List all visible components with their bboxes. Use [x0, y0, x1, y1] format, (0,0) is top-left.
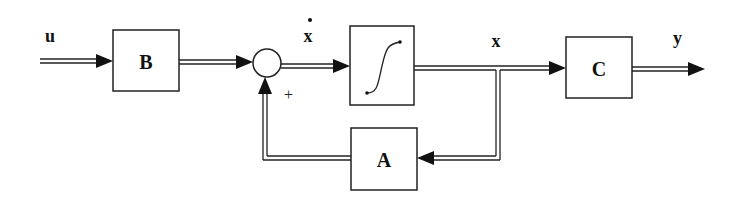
svg-text:A: A [377, 149, 392, 171]
derivative-dot [308, 18, 312, 22]
integrator-block [350, 26, 414, 105]
b-to-sum-arrow [179, 55, 253, 69]
input-arrow [40, 54, 113, 68]
plus-sign: + [284, 86, 293, 103]
label-y: y [673, 28, 682, 48]
xdot-arrow [281, 59, 350, 73]
block-b: B [113, 30, 179, 91]
summing-junction [253, 49, 281, 77]
block-c: C [566, 37, 632, 98]
x-arrow [414, 61, 566, 75]
diagram-canvas: u B + x [0, 0, 734, 202]
block-diagram: u B + x [0, 0, 734, 202]
svg-text:B: B [139, 51, 152, 73]
label-u: u [45, 26, 55, 46]
block-a: A [351, 128, 417, 190]
feedback-arrow [258, 77, 351, 160]
label-x: x [492, 31, 501, 51]
output-arrow [632, 62, 705, 76]
svg-text:C: C [592, 58, 606, 80]
feedback-branch [417, 70, 500, 165]
label-xdot: x [304, 26, 313, 46]
